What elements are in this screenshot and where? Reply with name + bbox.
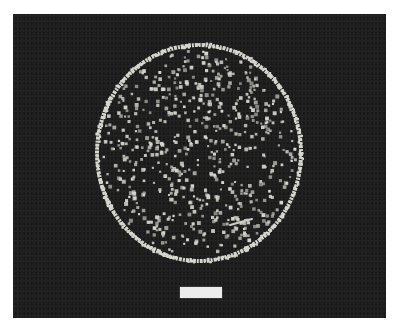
scale-bar: [180, 287, 222, 298]
photo-frame: [13, 14, 386, 318]
culture-dish: [13, 14, 386, 318]
